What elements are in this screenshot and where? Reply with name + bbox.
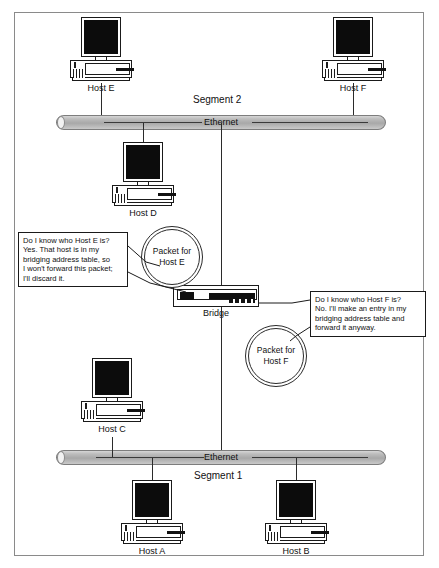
host-a-label: Host A: [121, 546, 183, 557]
segment-1-label: Segment 1: [194, 470, 242, 482]
wire-host-c-to-segment1: [112, 437, 113, 457]
wire-host-a-to-segment1: [152, 458, 153, 481]
base-front-panel: [96, 404, 141, 416]
monitor-icon: [276, 480, 316, 520]
bus-spine-left: [96, 457, 204, 458]
vent-grille-icon: [84, 410, 96, 419]
leader-line-to-bridge-right: [258, 300, 310, 303]
disk-drive-slot-icon: [167, 531, 185, 534]
base-foot: [123, 541, 181, 544]
monitor-icon: [132, 480, 172, 520]
screen: [135, 483, 169, 517]
host-b-label: Host B: [265, 546, 327, 557]
computer-base-unit: [121, 523, 183, 541]
screen: [95, 361, 129, 395]
bus-spine-right: [252, 457, 368, 458]
diagram-canvas: Segment 2 Ethernet Host E: [0, 0, 439, 568]
host-a-computer: Host A: [121, 480, 183, 546]
segment-1-media-label: Ethernet: [204, 452, 238, 463]
base-foot: [267, 541, 325, 544]
vent-grille-icon: [268, 532, 280, 541]
segment-1-ethernet-bus: Ethernet: [56, 450, 386, 465]
disk-drive-slot-icon: [311, 531, 329, 534]
base-foot: [83, 419, 141, 422]
computer-base-unit: [81, 401, 143, 419]
wire-host-b-to-segment1: [296, 458, 297, 481]
power-switch-icon: [269, 525, 271, 531]
computer-base-unit: [265, 523, 327, 541]
disk-drive-slot-icon: [127, 409, 145, 412]
base-front-panel: [280, 526, 325, 538]
screen: [279, 483, 313, 517]
monitor-icon: [92, 358, 132, 398]
callout-host-f-leaders: [0, 0, 439, 568]
host-c-label: Host C: [81, 424, 143, 435]
power-switch-icon: [125, 525, 127, 531]
bus-end-cap-left: [57, 451, 65, 464]
host-c-computer: Host C: [81, 358, 143, 424]
host-b-computer: Host B: [265, 480, 327, 546]
base-front-panel: [136, 526, 181, 538]
vent-grille-icon: [124, 532, 136, 541]
leader-line-to-packet-f: [290, 327, 310, 341]
power-switch-icon: [85, 403, 87, 409]
